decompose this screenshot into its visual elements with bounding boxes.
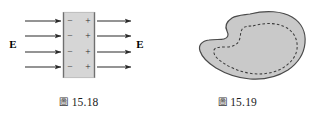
minus-sign-2: − xyxy=(67,31,72,41)
minus-sign-3: − xyxy=(67,47,72,57)
caption-number-left: 15.18 xyxy=(72,96,99,108)
figure-15-18-caption: 圖15.18 xyxy=(0,94,158,108)
conductor-outer-boundary xyxy=(199,12,305,80)
plus-sign-4: + xyxy=(85,62,90,72)
field-label-left: E xyxy=(9,38,16,50)
irregular-conductor-diagram xyxy=(158,0,317,92)
figure-page: − − − − + + + + E E 圖15.18 xyxy=(0,0,317,122)
plus-sign-1: + xyxy=(85,16,90,26)
plus-sign-2: + xyxy=(85,31,90,41)
field-label-right: E xyxy=(136,38,143,50)
incoming-field-arrows xyxy=(25,21,61,67)
caption-number-right: 15.19 xyxy=(230,96,257,108)
plus-sign-3: + xyxy=(85,47,90,57)
figure-15-19-caption: 圖15.19 xyxy=(158,94,317,108)
minus-sign-4: − xyxy=(67,62,72,72)
caption-prefix-left: 圖 xyxy=(59,97,69,107)
caption-prefix-right: 圖 xyxy=(218,97,228,107)
outgoing-field-arrows xyxy=(97,21,131,67)
figure-15-18-panel: − − − − + + + + E E 圖15.18 xyxy=(0,0,158,122)
dielectric-slab-diagram: − − − − + + + + E E xyxy=(0,0,158,92)
minus-sign-1: − xyxy=(67,16,72,26)
figure-15-19-panel: 圖15.19 xyxy=(158,0,317,122)
